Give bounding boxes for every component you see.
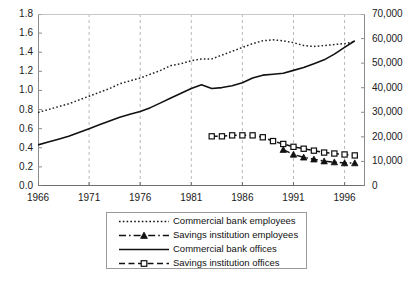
legend-swatch-dotted-icon: [107, 214, 173, 227]
chart-legend: Commercial bank employeesSavings institu…: [106, 212, 307, 269]
plot-canvas: [38, 14, 365, 186]
legend-item-1[interactable]: Savings institution employees: [107, 228, 306, 241]
marker-square: [311, 148, 316, 153]
legend-item-2[interactable]: Commercial bank offices: [107, 242, 306, 255]
x-tick-1996: 1996: [325, 193, 365, 203]
plot-area: [38, 14, 365, 186]
marker-triangle: [280, 146, 286, 152]
left-tick-0.6: 0.6: [0, 124, 33, 134]
marker-square: [240, 133, 245, 138]
legend-label: Commercial bank offices: [173, 244, 277, 254]
right-tick-30000: 30,000: [372, 107, 403, 117]
marker-square: [332, 151, 337, 156]
legend-label: Savings institution offices: [173, 258, 280, 268]
x-tick-1991: 1991: [273, 193, 313, 203]
marker-square: [322, 150, 327, 155]
marker-square: [270, 138, 275, 143]
marker-square: [219, 134, 224, 139]
x-tick-1981: 1981: [171, 193, 211, 203]
marker-triangle: [352, 160, 358, 166]
right-tick-10000: 10,000: [372, 156, 403, 166]
left-tick-0.0: 0.0: [0, 181, 33, 191]
legend-item-3[interactable]: Savings institution offices: [107, 256, 306, 269]
legend-item-0[interactable]: Commercial bank employees: [107, 214, 306, 227]
marker-square: [209, 134, 214, 139]
legend-swatch-dash-dot-icon: [107, 228, 173, 241]
marker-triangle: [290, 151, 296, 157]
left-tick-0.4: 0.4: [0, 143, 33, 153]
series-line-2: [38, 41, 355, 145]
legend-label: Commercial bank employees: [173, 216, 296, 226]
series-line-0: [38, 40, 355, 113]
right-tick-20000: 20,000: [372, 132, 403, 142]
x-tick-1976: 1976: [120, 193, 160, 203]
left-tick-0.2: 0.2: [0, 162, 33, 172]
right-tick-40000: 40,000: [372, 83, 403, 93]
right-tick-0: 0: [372, 181, 378, 191]
right-tick-50000: 50,000: [372, 58, 403, 68]
left-tick-1.4: 1.4: [0, 47, 33, 57]
left-tick-1.6: 1.6: [0, 28, 33, 38]
left-tick-1.0: 1.0: [0, 85, 33, 95]
marker-square: [250, 133, 255, 138]
chart-figure: 0.00.20.40.60.81.01.21.41.61.8 010,00020…: [0, 0, 412, 286]
marker-square: [352, 153, 357, 158]
marker-square: [301, 146, 306, 151]
right-tick-60000: 60,000: [372, 34, 403, 44]
x-tick-1971: 1971: [69, 193, 109, 203]
left-tick-1.8: 1.8: [0, 9, 33, 19]
left-tick-0.8: 0.8: [0, 105, 33, 115]
x-tick-1966: 1966: [18, 193, 58, 203]
legend-marker-triangle: [141, 232, 148, 238]
legend-swatch-dashed-icon: [107, 256, 173, 269]
marker-square: [281, 141, 286, 146]
right-tick-70000: 70,000: [372, 9, 403, 19]
marker-square: [230, 133, 235, 138]
marker-square: [342, 152, 347, 157]
legend-swatch-solid-icon: [107, 242, 173, 255]
legend-label: Savings institution employees: [173, 230, 298, 240]
marker-square: [291, 144, 296, 149]
marker-square: [260, 135, 265, 140]
left-tick-1.2: 1.2: [0, 66, 33, 76]
x-tick-1986: 1986: [222, 193, 262, 203]
legend-marker-square: [141, 261, 147, 267]
